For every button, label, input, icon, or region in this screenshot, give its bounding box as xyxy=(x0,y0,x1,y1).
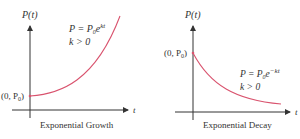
growth-graph: P(t) t (0, P0) P = P0ekt k > 0 Exponenti… xyxy=(1,9,136,130)
growth-intercept-point xyxy=(29,95,32,98)
decay-y-label: P(t) xyxy=(184,9,201,21)
diagram-canvas: P(t) t (0, P0) P = P0ekt k > 0 Exponenti… xyxy=(0,0,300,139)
growth-x-label: t xyxy=(133,105,136,115)
decay-intercept-label: (0, P0) xyxy=(164,48,187,59)
decay-intercept-point xyxy=(192,52,195,55)
growth-caption: Exponential Growth xyxy=(40,120,114,130)
growth-equation: P = P0ekt xyxy=(68,22,106,35)
decay-condition: k > 0 xyxy=(240,82,260,92)
decay-caption: Exponential Decay xyxy=(203,120,272,130)
growth-y-label: P(t) xyxy=(21,9,38,21)
growth-condition: k > 0 xyxy=(69,36,90,47)
decay-x-label: t xyxy=(295,107,298,117)
growth-intercept-label: (0, P0) xyxy=(1,91,24,102)
decay-equation: P = P0e−kt xyxy=(239,67,281,80)
decay-graph: P(t) t (0, P0) P = P0e−kt k > 0 Exponent… xyxy=(164,9,298,130)
